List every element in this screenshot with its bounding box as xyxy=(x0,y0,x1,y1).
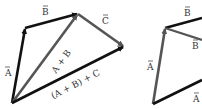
vector-b-gray-arrow-right xyxy=(165,28,202,40)
svg-text:B: B xyxy=(192,41,199,51)
label-b-lower-right: B xyxy=(192,40,199,51)
vector-b-arrow-right xyxy=(165,18,202,28)
label-c: C xyxy=(102,15,109,26)
vector-c-arrow xyxy=(78,14,123,46)
vector-addition-diagram: A B C A + B (A + B) + C A B xyxy=(0,0,202,109)
svg-text:A: A xyxy=(192,94,200,104)
label-a-partial-right: A xyxy=(192,93,200,104)
vector-a-arrow xyxy=(12,29,25,103)
vector-a-arrow-right xyxy=(153,29,165,104)
right-figure: A B B A xyxy=(146,7,202,104)
label-a-plus-b: A + B xyxy=(49,48,73,76)
left-figure: A B C A + B (A + B) + C xyxy=(4,6,123,103)
label-b-top-right: B xyxy=(184,7,191,18)
svg-text:C: C xyxy=(102,16,109,26)
svg-text:B: B xyxy=(184,8,191,18)
svg-text:B: B xyxy=(42,7,49,17)
svg-text:A + B: A + B xyxy=(49,48,73,76)
label-a-right: A xyxy=(146,61,154,72)
svg-text:A: A xyxy=(4,68,12,78)
label-a: A xyxy=(4,67,12,78)
svg-text:A: A xyxy=(146,62,154,72)
label-b: B xyxy=(42,6,49,17)
